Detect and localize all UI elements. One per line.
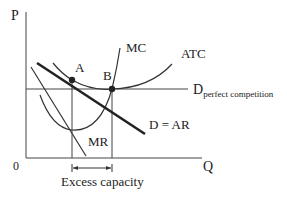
point-a-label: A xyxy=(75,60,85,75)
x-axis-label: Q xyxy=(203,159,213,174)
d-perfect-subscript: perfect competition xyxy=(203,89,274,99)
arrow-head-right-icon xyxy=(106,166,111,170)
d-perfect-label: Dperfect competition xyxy=(193,82,274,99)
arrow-head-left-icon xyxy=(73,166,78,170)
economics-diagram: P Q 0 MC ATC Dperfect competition D = AR… xyxy=(0,0,287,202)
y-axis-label: P xyxy=(11,8,19,23)
point-b-marker xyxy=(109,86,115,92)
mr-curve xyxy=(31,67,86,156)
excess-capacity-label: Excess capacity xyxy=(61,174,144,189)
point-b-label: B xyxy=(103,68,112,83)
point-a-marker xyxy=(69,77,75,83)
d-perfect-main: D xyxy=(193,82,203,97)
mr-label: MR xyxy=(88,134,109,149)
atc-label: ATC xyxy=(181,46,206,61)
d-ar-curve xyxy=(37,63,145,134)
mc-label: MC xyxy=(126,40,146,55)
origin-label: 0 xyxy=(13,159,19,173)
d-ar-label: D = AR xyxy=(149,117,190,132)
